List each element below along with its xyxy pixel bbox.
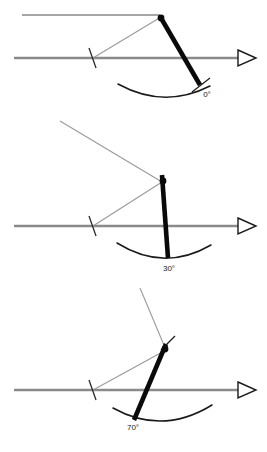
pivot-point-dot bbox=[158, 15, 165, 22]
ray-incoming-ray bbox=[60, 121, 162, 182]
pivot-point-dot bbox=[162, 346, 169, 353]
axis-arrowhead-icon bbox=[238, 218, 256, 234]
ray-reflected-ray bbox=[93, 182, 162, 226]
panel-0-degrees: 0° bbox=[14, 15, 256, 99]
rotating-arm-bar[interactable] bbox=[162, 175, 168, 258]
angle-label-text: 70° bbox=[127, 423, 139, 432]
ray-incoming-ray bbox=[140, 288, 166, 350]
angle-label-text: 30° bbox=[163, 264, 175, 273]
panel-30-degrees: 30° bbox=[14, 121, 256, 273]
angle-diagram-figure: 0°30°70° bbox=[0, 0, 267, 452]
rotating-arm-bar[interactable] bbox=[134, 344, 166, 420]
angle-arc bbox=[118, 84, 210, 97]
pivot-point-dot bbox=[160, 178, 167, 185]
diagram-canvas: 0°30°70° bbox=[0, 0, 267, 452]
axis-arrowhead-icon bbox=[238, 50, 256, 66]
ray-incident-ray bbox=[93, 17, 161, 58]
axis-arrowhead-icon bbox=[238, 382, 256, 398]
panel-70-degrees: 70° bbox=[14, 288, 256, 432]
rotating-arm-bar[interactable] bbox=[161, 18, 200, 85]
panels-group: 0°30°70° bbox=[14, 15, 256, 432]
angle-arc bbox=[117, 243, 211, 258]
angle-arc bbox=[113, 405, 212, 421]
angle-label-text: 0° bbox=[203, 90, 211, 99]
